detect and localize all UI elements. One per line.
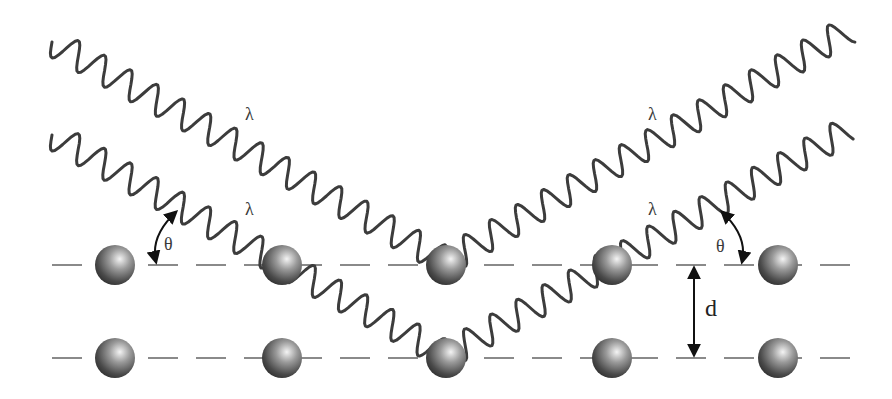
reflected-angle-marker: θ: [716, 212, 743, 262]
plane-spacing-marker: d: [694, 268, 717, 355]
x-ray-waves: [50, 25, 855, 361]
atom: [262, 245, 302, 285]
reflected-angle-label: θ: [716, 236, 725, 256]
atom: [592, 245, 632, 285]
atom: [426, 245, 466, 285]
lower-incident-wave: [50, 134, 446, 357]
atom: [426, 338, 466, 378]
wavelength-label-upper-incident: λ: [245, 104, 254, 124]
lower-reflected-wave: [452, 123, 853, 360]
atom: [592, 338, 632, 378]
upper-reflected-wave: [452, 25, 855, 267]
atom: [95, 245, 135, 285]
atom: [95, 338, 135, 378]
wavelength-label-lower-incident: λ: [245, 199, 254, 219]
wavelength-label-lower-reflected: λ: [648, 199, 657, 219]
wavelength-label-upper-reflected: λ: [648, 104, 657, 124]
atom: [262, 338, 302, 378]
incident-angle-label: θ: [164, 234, 173, 254]
bragg-diffraction-diagram: θ θ d λ λ λ λ: [0, 0, 892, 399]
atom: [758, 245, 798, 285]
atom: [758, 338, 798, 378]
upper-incident-wave: [50, 41, 446, 263]
incident-angle-marker: θ: [155, 212, 176, 262]
plane-spacing-label: d: [705, 295, 717, 321]
reflected-angle-arc-icon: [722, 212, 743, 262]
